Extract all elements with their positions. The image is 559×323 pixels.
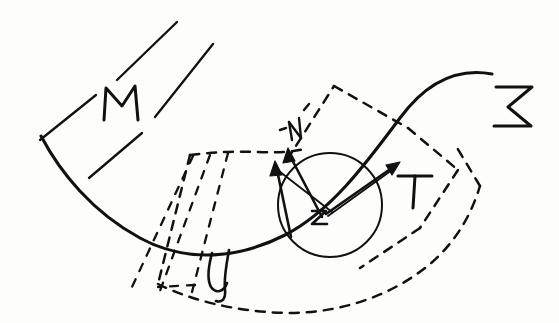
glyph-U-stroke-right	[216, 250, 229, 302]
manifold-line-4	[89, 133, 142, 178]
chart-patch-edge-right-down	[420, 170, 458, 228]
hypersurface-curve-sigma	[41, 73, 492, 255]
glyph-sigma-stroke	[494, 87, 532, 126]
glyph-M-stroke	[104, 86, 138, 120]
neighborhood-region-u	[158, 146, 480, 313]
metric-ball-circle	[278, 153, 382, 257]
sigma-curve-path	[41, 73, 492, 255]
u-lower-boundary	[158, 186, 480, 313]
u-right-boundary	[456, 146, 480, 186]
manifold-line-1	[117, 22, 177, 80]
fan-line-1	[132, 156, 193, 287]
tangent-vector-shaft	[326, 165, 396, 214]
manifold-line-2	[155, 44, 213, 117]
hand-drawn-diagram: M Σ 𝒰 z N T	[0, 0, 559, 323]
glyph-T-stroke-stem	[413, 176, 415, 208]
chart-patch-edge-top-right	[334, 86, 408, 128]
chart-patch-edge-bottom-right	[408, 128, 458, 170]
ball-outline	[278, 153, 382, 257]
transversal-fan-lines	[132, 153, 228, 292]
label-normal-N	[280, 104, 309, 140]
manifold-line-3	[40, 95, 96, 140]
label-hypersurface-sigma	[494, 87, 532, 126]
label-neighborhood-U	[208, 250, 229, 302]
label-tangent-T	[398, 176, 432, 208]
fan-line-3	[192, 153, 228, 292]
label-ambient-manifold-M	[104, 86, 138, 120]
diagram-canvas	[0, 0, 559, 323]
glyph-N-stroke-tick	[304, 104, 309, 110]
glyph-N-stroke-tick2	[280, 128, 286, 130]
chart-patch-edge-bottom	[360, 228, 420, 268]
chart-patch-edge-top-left	[287, 86, 334, 160]
